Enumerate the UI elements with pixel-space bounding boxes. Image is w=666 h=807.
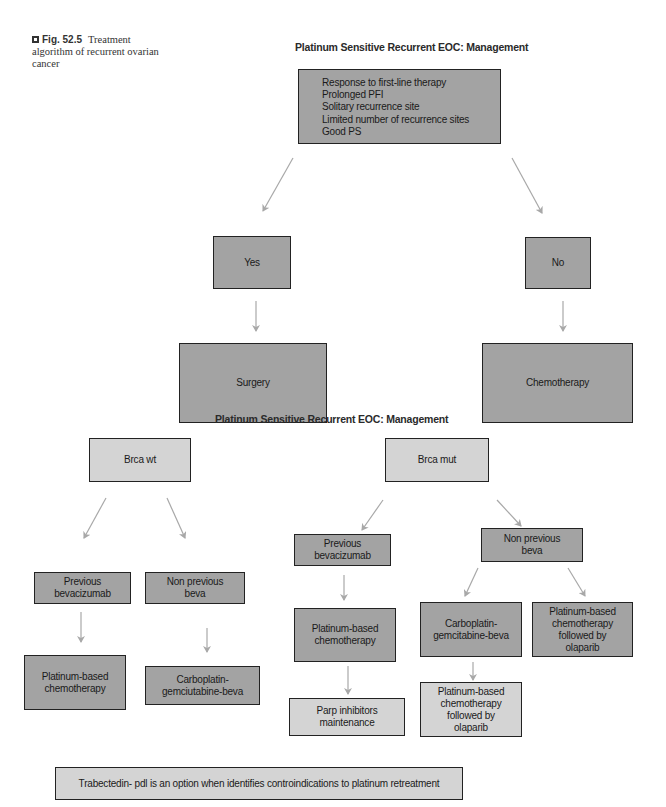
mut-olaparib-right-label: Platinum-based chemotherapy followed by … xyxy=(547,606,618,654)
criteria-item: Response to first-line therapy xyxy=(322,77,469,89)
arrow-wt-to-nonprevious xyxy=(167,498,185,538)
no-box: No xyxy=(525,237,591,289)
wt-previous-beva-label: Previous bevacizumab xyxy=(43,576,122,600)
criteria-list: Response to first-line therapy Prolonged… xyxy=(322,77,469,138)
surgery-label: Surgery xyxy=(236,377,270,389)
diagram1-title: Platinum Sensitive Recurrent EOC: Manage… xyxy=(295,41,528,53)
wt-non-previous-beva-label: Non previous beva xyxy=(164,576,226,600)
figure-label: Fig. 52.5 xyxy=(42,34,82,45)
mut-previous-beva-box: Previous bevacizumab xyxy=(294,534,391,566)
surgery-box: Surgery xyxy=(179,343,327,423)
yes-box: Yes xyxy=(213,236,291,289)
criteria-box: Response to first-line therapy Prolonged… xyxy=(298,69,501,144)
no-label: No xyxy=(552,257,564,269)
trabectedin-footnote-box: Trabectedin- pdl is an option when ident… xyxy=(55,767,463,800)
mut-parp-maintenance-label: Parp inhibitors maintenance xyxy=(310,705,384,729)
arrow-criteria-to-no xyxy=(512,158,542,213)
criteria-item: Limited number of recurrence sites xyxy=(322,114,469,126)
brca-mut-label: Brca mut xyxy=(418,454,456,466)
arrow-mut-to-previous xyxy=(362,500,383,530)
wt-platinum-chemo-label: Platinum-based chemotherapy xyxy=(37,671,113,695)
brca-mut-box: Brca mut xyxy=(385,438,489,482)
mut-parp-maintenance-box: Parp inhibitors maintenance xyxy=(289,698,405,736)
trabectedin-footnote-label: Trabectedin- pdl is an option when ident… xyxy=(79,778,440,790)
mut-platinum-chemo-box: Platinum-based chemotherapy xyxy=(294,608,396,662)
arrow-mut-to-nonprevious xyxy=(497,500,521,526)
criteria-item: Good PS xyxy=(322,126,469,138)
figure-marker-icon xyxy=(32,36,39,43)
mut-carboplatin-label: Carboplatin-gemcitabine-beva xyxy=(425,618,517,642)
wt-non-previous-beva-box: Non previous beva xyxy=(145,572,245,604)
figure-caption: Fig. 52.5Treatment algorithm of recurren… xyxy=(32,34,172,70)
wt-carboplatin-box: Carboplatin-gemciutabine-beva xyxy=(145,666,260,705)
criteria-item: Prolonged PFI xyxy=(322,89,469,101)
wt-platinum-chemo-box: Platinum-based chemotherapy xyxy=(24,655,126,710)
arrow-mut-nonprevious-to-carboplatin xyxy=(465,568,478,596)
mut-non-previous-beva-box: Non previous beva xyxy=(481,528,583,562)
wt-carboplatin-label: Carboplatin-gemciutabine-beva xyxy=(152,674,253,698)
diagram2-title: Platinum Sensitive Recurrent EOC: Manage… xyxy=(215,413,448,425)
arrow-mut-nonprevious-to-olaparib xyxy=(568,568,585,596)
criteria-item: Solitary recurrence site xyxy=(322,101,469,113)
arrow-wt-to-previous xyxy=(84,498,106,538)
mut-olaparib-bottom-label: Platinum-based chemotherapy followed by … xyxy=(435,686,507,734)
mut-non-previous-beva-label: Non previous beva xyxy=(498,533,566,557)
mut-carboplatin-box: Carboplatin-gemcitabine-beva xyxy=(420,602,522,657)
arrow-criteria-to-yes xyxy=(263,158,293,211)
chemotherapy-label: Chemotherapy xyxy=(526,377,589,389)
mut-olaparib-bottom-box: Platinum-based chemotherapy followed by … xyxy=(420,682,522,737)
brca-wt-box: Brca wt xyxy=(89,438,191,482)
chemotherapy-box: Chemotherapy xyxy=(482,343,633,423)
brca-wt-label: Brca wt xyxy=(124,454,156,466)
mut-platinum-chemo-label: Platinum-based chemotherapy xyxy=(307,623,383,647)
mut-previous-beva-label: Previous bevacizumab xyxy=(299,538,386,562)
yes-label: Yes xyxy=(244,257,260,269)
wt-previous-beva-box: Previous bevacizumab xyxy=(34,572,131,604)
mut-olaparib-right-box: Platinum-based chemotherapy followed by … xyxy=(532,602,633,657)
